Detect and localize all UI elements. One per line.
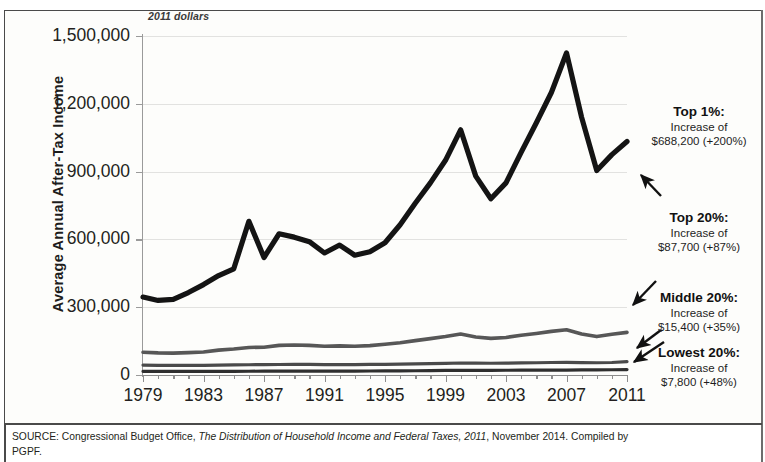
annotation-top-1-percent-line1: Increase of [629, 120, 765, 134]
source-note: SOURCE: Congressional Budget Office, The… [12, 430, 752, 460]
annotation-middle-20-percent-heading: Middle 20%: [629, 290, 765, 306]
annotation-top-20-percent-line1: Increase of [629, 226, 765, 240]
arrow-top20 [641, 175, 661, 196]
annotation-top-1-percent-line2: $688,200 (+200%) [629, 134, 765, 148]
annotation-top-20-percent-line2: $87,700 (+87%) [629, 240, 765, 254]
annotation-lowest-20-percent-line2: $7,800 (+48%) [629, 375, 765, 389]
annotation-top-20-percent-heading: Top 20%: [629, 210, 765, 226]
annotation-lowest-20-percent-line1: Increase of [629, 361, 765, 375]
annotation-middle-20-percent: Middle 20%: Increase of $15,400 (+35%) [629, 290, 765, 334]
annotation-lowest-20-percent: Lowest 20%: Increase of $7,800 (+48%) [629, 345, 765, 389]
annotation-middle-20-percent-line1: Increase of [629, 306, 765, 320]
annotation-top-20-percent: Top 20%: Increase of $87,700 (+87%) [629, 210, 765, 254]
annotation-middle-20-percent-line2: $15,400 (+35%) [629, 320, 765, 334]
source-suffix: , November 2014. Compiled by [486, 431, 628, 442]
chart-page: Average Annual After-Tax Income 2011 dol… [0, 0, 765, 462]
source-report-title: The Distribution of Household Income and… [198, 431, 486, 442]
source-note-left-rule [4, 423, 6, 462]
annotation-top-1-percent: Top 1%: Increase of $688,200 (+200%) [629, 104, 765, 148]
source-note-rule [4, 423, 762, 425]
source-line-2: PGPF. [12, 445, 752, 460]
annotation-lowest-20-percent-heading: Lowest 20%: [629, 345, 765, 361]
source-prefix: SOURCE: Congressional Budget Office, [12, 431, 198, 442]
annotation-top-1-percent-heading: Top 1%: [629, 104, 765, 120]
